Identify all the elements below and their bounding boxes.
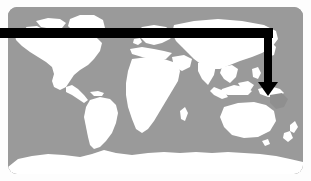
world-map-card	[8, 7, 303, 174]
world-map-svg	[8, 7, 303, 174]
figure-canvas	[0, 0, 311, 181]
